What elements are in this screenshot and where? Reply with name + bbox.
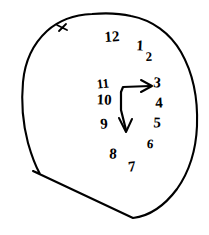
outline-tick-mark-icon [57,24,67,31]
clock-numeral-4: 4 [155,94,164,110]
clock-numeral-5: 5 [153,114,161,130]
clock-numeral-11: 11 [96,75,110,91]
clock-numeral-2: 2 [145,49,152,64]
clock-numerals-group: 121234567891011 [96,28,164,175]
clock-drawing-svg: 121234567891011 [0,0,209,235]
clock-numeral-8: 8 [109,145,118,161]
clock-numeral-12: 12 [104,28,120,45]
clock-numeral-6: 6 [146,136,155,152]
clock-numeral-9: 9 [100,115,108,131]
clock-hands-group [119,80,152,132]
clock-drawing-canvas: 121234567891011 [0,0,209,235]
clock-numeral-3: 3 [153,74,162,91]
clock-numeral-1: 1 [136,37,144,53]
clock-numeral-7: 7 [127,158,136,175]
clock-numeral-10: 10 [96,91,112,108]
